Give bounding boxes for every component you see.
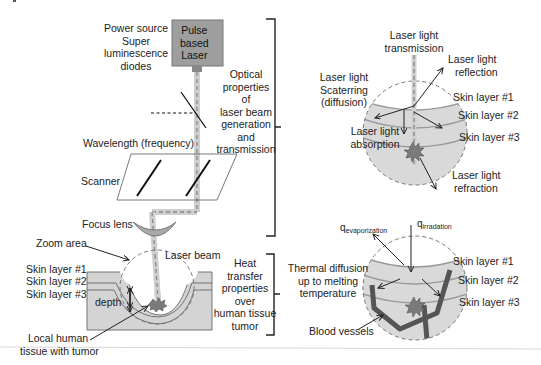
tr-skin-layer-3-label: Skin layer #3	[459, 131, 520, 144]
absorption-line-1: Laser light	[350, 125, 400, 138]
optical-line-3: of	[215, 93, 277, 106]
heat-line-2: transfer	[212, 270, 278, 283]
br-skin-layer-1-label: Skin layer #1	[453, 255, 514, 268]
skin-layer-3-label: Skin layer #3	[26, 288, 87, 301]
optical-line-1: Optical	[215, 68, 277, 81]
corner-mark	[13, 0, 16, 2]
tumor-label: Local human tissue with tumor	[20, 332, 96, 357]
power-line-3: luminescence	[104, 47, 168, 60]
optical-line-5: generation	[215, 118, 277, 131]
refraction-line-1: Laser light	[452, 169, 500, 182]
scanner-mirror-left	[137, 160, 161, 196]
q-irradiation-label: qirradation	[417, 218, 452, 234]
heat-line-5: human tissue	[212, 307, 278, 320]
tumor-line-2: tissue with tumor	[20, 345, 96, 358]
bottom-right-zoom	[359, 225, 470, 344]
power-line-1: Power source	[104, 22, 168, 35]
thermal-line-2: up to melting	[286, 275, 370, 288]
power-line-2: Super	[104, 35, 168, 48]
scanner-label: Scanner	[81, 175, 120, 188]
power-source-label: Power source Super luminescence diodes	[104, 22, 168, 72]
scattering-line-2: Scaterring	[316, 84, 372, 97]
laser-box-label: Pulse based Laser	[180, 24, 209, 62]
tumor-left	[148, 298, 167, 312]
refraction-line-2: refraction	[452, 182, 500, 195]
heat-line-4: over	[212, 295, 278, 308]
zoom-area-label: Zoom area	[36, 237, 87, 250]
scattering-line-3: (diffusion)	[316, 96, 372, 109]
optical-line-6: and	[215, 131, 277, 144]
laser-aperture	[192, 66, 202, 72]
thermal-line-1: Thermal diffusion	[286, 262, 370, 275]
thermal-diffusion-label: Thermal diffusion up to melting temperat…	[286, 262, 370, 300]
q-evap-sub: evaporization	[346, 227, 388, 234]
tr-skin-layer-2-label: Skin layer #2	[458, 109, 519, 122]
scattering-label: Laser light Scaterring (diffusion)	[316, 71, 372, 109]
absorption-line-2: absorption	[350, 138, 400, 151]
q-irr-sub: irradation	[423, 223, 452, 230]
skin-layer-1-label: Skin layer #1	[26, 263, 87, 276]
zoom-area-arrow	[86, 246, 129, 260]
beam-splitter	[181, 92, 206, 128]
wavelength-label: Wavelength (frequency)	[83, 137, 194, 150]
refraction-label: Laser light refraction	[452, 169, 500, 194]
heat-line-1: Heat	[212, 257, 278, 270]
power-line-4: diodes	[104, 60, 168, 73]
reflection-line-2: reflection	[448, 66, 498, 79]
reflection-label: Laser light reflection	[448, 53, 498, 78]
scanner-plane	[117, 154, 237, 200]
focus-lens-label: Focus lens	[82, 218, 133, 231]
optical-line-2: properties	[215, 81, 277, 94]
q-evaporization-label: qevaporization	[340, 222, 387, 238]
reflection-line-1: Laser light	[448, 53, 498, 66]
laser-box-line-1: Pulse	[180, 24, 209, 37]
transmission-line-2: transmission	[381, 42, 447, 55]
heat-line-3: properties	[212, 282, 278, 295]
optical-line-4: laser beam	[215, 106, 277, 119]
tumor-line-1: Local human	[20, 332, 96, 345]
blood-vessels-label: Blood vessels	[309, 325, 374, 338]
transmission-label: Laser light transmission	[381, 29, 447, 54]
scattering-line-1: Laser light	[316, 71, 372, 84]
transmission-line-1: Laser light	[381, 29, 447, 42]
laser-box-line-2: based	[180, 37, 209, 50]
heat-line-6: tumor	[212, 320, 278, 333]
laser-box-line-3: Laser	[180, 49, 209, 62]
optical-line-7: transmission	[215, 143, 277, 156]
heat-transfer-label: Heat transfer properties over human tiss…	[212, 257, 278, 332]
thermal-line-3: temperature	[286, 287, 370, 300]
depth-label: depth	[95, 296, 121, 309]
tr-skin-layer-1-label: Skin layer #1	[453, 91, 514, 104]
optical-properties-label: Optical properties of laser beam generat…	[215, 68, 277, 156]
br-skin-layer-3-label: Skin layer #3	[459, 296, 520, 309]
skin-layer-2-label: Skin layer #2	[26, 275, 87, 288]
absorption-label: Laser light absorption	[350, 125, 400, 150]
br-skin-layer-2-label: Skin layer #2	[458, 274, 519, 287]
